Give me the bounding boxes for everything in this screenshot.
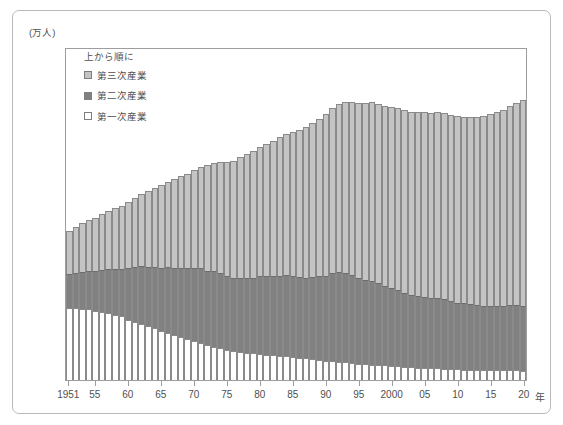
chart-figure: (万人) 01,0002,0003,0004,0005,0006,0007,00… — [0, 0, 563, 425]
bar-1995 — [355, 49, 362, 380]
bar-segment-tertiary — [290, 132, 297, 276]
bar-2014 — [480, 49, 487, 380]
bar-segment-primary — [138, 324, 145, 380]
bar-1951 — [66, 49, 73, 380]
bar-segment-primary — [152, 328, 159, 380]
bar-segment-secondary — [178, 268, 185, 337]
bar-segment-primary — [388, 366, 395, 380]
bar-segment-secondary — [158, 268, 165, 331]
bar-segment-secondary — [171, 268, 178, 335]
bar-segment-primary — [79, 309, 86, 380]
bar-segment-primary — [191, 341, 198, 380]
bar-segment-secondary — [309, 277, 316, 359]
bar-segment-tertiary — [250, 151, 257, 278]
bar-segment-secondary — [184, 268, 191, 339]
bar-segment-secondary — [119, 269, 126, 316]
bar-segment-primary — [112, 315, 119, 380]
bar-segment-primary — [184, 339, 191, 380]
bar-segment-primary — [329, 361, 336, 380]
bar-segment-primary — [92, 311, 99, 380]
bar-segment-primary — [520, 371, 527, 380]
bar-segment-primary — [204, 345, 211, 380]
bar-2002 — [401, 49, 408, 380]
bar-segment-secondary — [244, 278, 251, 353]
bar-segment-tertiary — [152, 188, 159, 267]
bar-segment-primary — [480, 370, 487, 380]
legend-item-primary: 第一次産業 — [84, 112, 147, 122]
bar-segment-tertiary — [211, 163, 218, 272]
bar-segment-primary — [474, 370, 481, 380]
bar-segment-secondary — [454, 303, 461, 370]
bar-2001 — [395, 49, 402, 380]
bar-segment-tertiary — [355, 103, 362, 278]
bar-segment-secondary — [165, 267, 172, 333]
legend-item-label: 第二次産業 — [97, 91, 147, 101]
bar-segment-secondary — [316, 276, 323, 360]
bar-segment-tertiary — [487, 114, 494, 306]
bar-segment-tertiary — [500, 110, 507, 306]
bar-segment-secondary — [290, 276, 297, 357]
bar-segment-secondary — [66, 274, 73, 308]
bar-1978 — [244, 49, 251, 380]
bar-segment-primary — [487, 370, 494, 380]
bar-1968 — [178, 49, 185, 380]
bar-segment-secondary — [86, 271, 93, 309]
bar-segment-secondary — [79, 272, 86, 309]
chart-legend: 上から順に 第三次産業第二次産業第一次産業 — [84, 52, 147, 132]
bar-2005 — [421, 49, 428, 380]
bar-segment-secondary — [474, 305, 481, 370]
bar-segment-primary — [355, 364, 362, 380]
bar-segment-secondary — [250, 278, 257, 354]
bar-segment-tertiary — [86, 220, 93, 271]
bar-2004 — [415, 49, 422, 380]
bar-segment-tertiary — [66, 231, 73, 274]
bar-segment-primary — [513, 370, 520, 380]
bar-segment-secondary — [270, 276, 277, 356]
bar-segment-secondary — [257, 276, 264, 354]
bar-segment-primary — [336, 362, 343, 380]
bar-segment-tertiary — [316, 119, 323, 277]
bar-segment-secondary — [237, 278, 244, 352]
bar-segment-tertiary — [480, 116, 487, 306]
bar-segment-primary — [145, 326, 152, 380]
bar-segment-tertiary — [217, 162, 224, 273]
bar-segment-secondary — [92, 271, 99, 311]
bar-segment-primary — [448, 369, 455, 380]
bar-1981 — [263, 49, 270, 380]
bar-segment-primary — [244, 353, 251, 380]
bar-2010 — [454, 49, 461, 380]
bar-segment-primary — [277, 356, 284, 380]
bar-segment-secondary — [283, 275, 290, 356]
bar-1976 — [230, 49, 237, 380]
bar-1999 — [382, 49, 389, 380]
bar-segment-secondary — [99, 270, 106, 312]
bar-segment-tertiary — [283, 134, 290, 275]
bar-segment-secondary — [132, 267, 139, 322]
bar-segment-tertiary — [336, 104, 343, 272]
bar-segment-secondary — [296, 277, 303, 358]
bar-segment-secondary — [415, 296, 422, 367]
bar-segment-secondary — [408, 295, 415, 367]
bar-segment-primary — [342, 362, 349, 380]
bar-2011 — [461, 49, 468, 380]
bar-1986 — [296, 49, 303, 380]
bar-segment-secondary — [375, 283, 382, 365]
bar-segment-secondary — [487, 306, 494, 370]
bar-segment-secondary — [303, 278, 310, 359]
bar-1992 — [336, 49, 343, 380]
bar-segment-primary — [119, 316, 126, 380]
bar-segment-primary — [507, 370, 514, 380]
bar-segment-secondary — [355, 278, 362, 364]
bar-1965 — [158, 49, 165, 380]
bar-segment-tertiary — [467, 117, 474, 303]
bar-segment-primary — [211, 347, 218, 380]
bar-segment-secondary — [480, 306, 487, 371]
bar-1967 — [171, 49, 178, 380]
bar-segment-primary — [362, 364, 369, 380]
bar-segment-tertiary — [99, 214, 106, 270]
bar-segment-tertiary — [277, 137, 284, 276]
bar-segment-primary — [461, 370, 468, 380]
bar-1984 — [283, 49, 290, 380]
bar-segment-secondary — [401, 293, 408, 367]
bar-segment-primary — [270, 355, 277, 380]
